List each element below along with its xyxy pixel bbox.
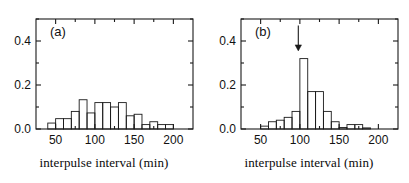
histogram-bar <box>126 116 134 129</box>
y-tick-label: 0.4 <box>205 34 236 48</box>
histogram-bar <box>158 125 166 129</box>
histogram-bar <box>142 125 150 129</box>
histogram-bar <box>63 119 71 129</box>
figure-container: (a) interpulse interval (min) 5010015020… <box>0 0 409 183</box>
x-tick-label: 100 <box>85 133 105 147</box>
histogram-bar <box>261 126 269 129</box>
histogram-bar <box>308 92 316 129</box>
histogram-bar <box>316 92 324 129</box>
x-tick-label: 200 <box>163 133 183 147</box>
arrow-head <box>295 45 301 51</box>
y-tick-label: 0.0 <box>205 122 236 136</box>
histogram-bar <box>363 128 371 129</box>
histogram-bar <box>118 103 126 129</box>
panel-b-xaxis-title: interpulse interval (min) <box>205 155 409 171</box>
histogram-bar <box>339 127 347 129</box>
y-tick-label: 0.2 <box>0 78 31 92</box>
histogram-bar <box>323 111 331 129</box>
histogram-bar <box>284 117 292 129</box>
panel-b-label: (b) <box>255 24 271 39</box>
x-tick-label: 200 <box>368 133 388 147</box>
histogram-bar <box>166 125 174 129</box>
y-tick-label: 0.4 <box>0 34 31 48</box>
histogram-bar <box>95 103 103 129</box>
x-tick-label: 150 <box>124 133 144 147</box>
panel-b: (b) interpulse interval (min) 5010015020… <box>205 0 409 183</box>
x-tick-label: 50 <box>49 133 62 147</box>
histogram-bar <box>79 100 87 129</box>
y-tick-label: 0.2 <box>205 78 236 92</box>
histogram-bar <box>48 123 56 129</box>
x-tick-label: 100 <box>290 133 310 147</box>
panel-a-xaxis-title: interpulse interval (min) <box>0 155 204 171</box>
x-tick-label: 50 <box>254 133 267 147</box>
histogram-bar <box>300 59 308 129</box>
panel-a-histogram-bars <box>48 100 174 129</box>
histogram-bar <box>87 113 95 129</box>
x-tick-label: 150 <box>329 133 349 147</box>
panel-b-annotations <box>295 26 301 51</box>
panel-a: (a) interpulse interval (min) 5010015020… <box>0 0 204 183</box>
histogram-bar <box>134 114 142 129</box>
panel-a-label: (a) <box>50 24 66 39</box>
histogram-bar <box>111 107 119 129</box>
panel-b-histogram-bars <box>261 59 371 129</box>
histogram-bar <box>103 103 111 129</box>
histogram-bar <box>292 111 300 129</box>
y-tick-label: 0.0 <box>0 122 31 136</box>
histogram-bar <box>268 122 276 129</box>
histogram-bar <box>331 122 339 129</box>
histogram-bar <box>347 125 355 129</box>
histogram-bar <box>56 119 64 129</box>
